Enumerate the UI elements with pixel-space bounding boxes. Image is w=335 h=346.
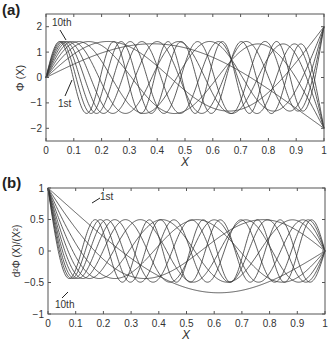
y-tick-label: 1 [36,47,42,58]
y-tick-label: 1 [38,183,44,194]
plot-b-annotation-1st: 1st [100,191,114,202]
x-tick-label: 0.6 [206,145,220,156]
x-tick-label: 0.4 [152,318,166,329]
x-tick-label: 0.2 [95,145,109,156]
mode-curve-8 [48,188,325,282]
chart-canvas: 00.10.20.30.40.50.60.70.80.91−2−1012 00.… [0,0,335,346]
x-tick-label: 0.8 [263,318,277,329]
mode-curve-5 [48,188,325,282]
x-tick-label: 0.9 [290,318,304,329]
plot-a-xlabel: X [180,155,190,169]
mode-curve-6 [46,27,324,114]
mode-curve-10 [48,188,325,282]
mode-curve-3 [48,188,325,282]
mode-curve-5 [46,42,324,129]
plot-b-ylabel: d²Φ (X)/(X²) [11,225,22,277]
y-tick-label: −1 [31,97,43,108]
plot-a-annotation-10th: 10th [52,17,71,28]
mode-curve-9 [48,188,325,282]
mode-curve-6 [48,188,325,282]
plot-a: 00.10.20.30.40.50.60.70.80.91−2−1012 [31,14,328,156]
x-tick-label: 0.4 [150,145,164,156]
arrow-icon [62,292,68,298]
x-tick-label: 0.1 [69,318,83,329]
plot-a-annotation-1st: 1st [58,98,72,109]
y-tick-label: 2 [36,21,42,32]
x-tick-label: 0.7 [234,145,248,156]
y-tick-label: −1 [33,309,45,320]
arrow-icon [65,80,72,96]
plot-a-ylabel: Φ (X) [14,65,26,92]
x-tick-label: 0.3 [122,145,136,156]
x-tick-label: 0.1 [67,145,81,156]
x-tick-label: 0.3 [124,318,138,329]
x-tick-label: 0.2 [96,318,110,329]
plot-b-xlabel: X [181,328,191,342]
mode-curve-4 [48,188,325,282]
mode-curve-1 [48,188,325,293]
y-tick-label: 0 [36,72,42,83]
mode-curve-7 [48,188,325,282]
x-tick-label: 0.6 [207,318,221,329]
x-tick-label: 1 [321,145,327,156]
x-tick-label: 1 [322,318,328,329]
y-tick-label: −2 [31,123,43,134]
y-tick-label: 0.5 [30,214,44,225]
arrow-icon [60,30,66,40]
y-tick-label: −0.5 [24,277,44,288]
x-tick-label: 0.9 [289,145,303,156]
x-tick-label: 0.7 [235,318,249,329]
x-tick-label: 0 [43,145,49,156]
plot-b-annotation-10th: 10th [55,299,74,310]
x-tick-label: 0.8 [261,145,275,156]
arrow-icon [92,198,100,203]
x-tick-label: 0 [45,318,51,329]
y-tick-label: 0 [38,246,44,257]
